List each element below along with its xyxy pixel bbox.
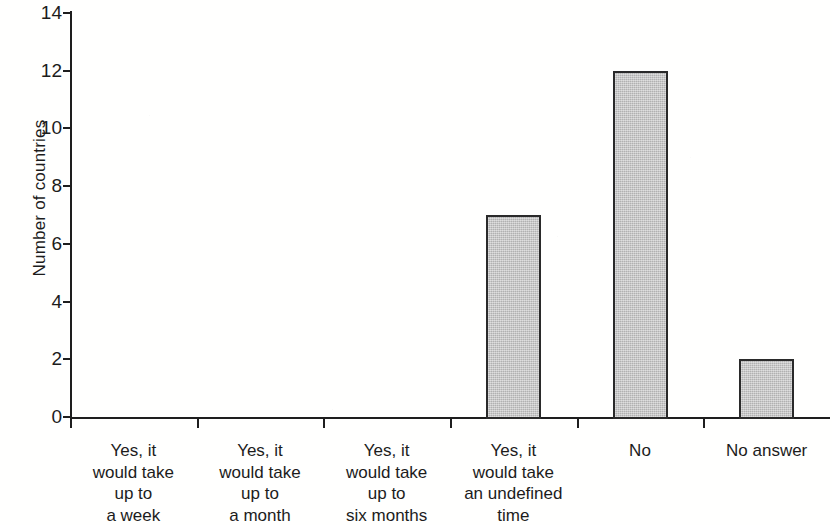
bar xyxy=(613,71,668,419)
bar xyxy=(486,215,541,419)
x-axis-origin-tick-mark xyxy=(70,419,72,428)
x-axis-tick-mark xyxy=(703,419,705,428)
x-axis-category-label: No answer xyxy=(703,440,830,462)
y-axis-tick-mark xyxy=(63,127,71,129)
bar-chart-figure: Number of countries 02468101214 Yes, it … xyxy=(0,0,832,525)
y-axis-tick-mark xyxy=(63,301,71,303)
y-axis-tick-mark xyxy=(63,70,71,72)
x-axis-tick-mark xyxy=(323,419,325,428)
x-axis-category-label: Yes, it would take up to a month xyxy=(197,440,324,525)
x-axis-category-label: Yes, it would take an undefined time xyxy=(450,440,577,525)
y-axis-tick-mark xyxy=(63,416,71,418)
y-axis-tick-mark xyxy=(63,243,71,245)
x-axis-tick-mark xyxy=(450,419,452,428)
x-axis-category-label: Yes, it would take up to six months xyxy=(323,440,450,525)
y-axis-tick-mark xyxy=(63,185,71,187)
x-axis-category-label: Yes, it would take up to a week xyxy=(70,440,197,525)
plot-area: Yes, it would take up to a weekYes, it w… xyxy=(0,0,832,525)
y-axis-tick-mark xyxy=(63,358,71,360)
x-axis-tick-mark xyxy=(577,419,579,428)
bar xyxy=(739,359,794,419)
x-axis-tick-mark xyxy=(197,419,199,428)
y-axis-tick-mark xyxy=(63,12,71,14)
x-axis-category-label: No xyxy=(577,440,704,462)
